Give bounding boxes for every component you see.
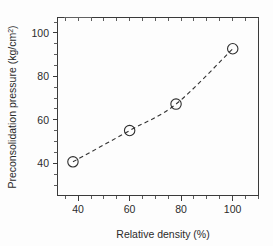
data-point-marker [124, 125, 134, 135]
x-tick-label-2: 80 [175, 203, 187, 215]
x-axis-ticks [65, 196, 258, 201]
data-point-marker [228, 44, 238, 54]
y-tick-label-0: 40 [37, 157, 49, 169]
chart-figure: 40 60 80 100 40 60 80 100 Relative densi… [0, 0, 273, 246]
y-tick-label-3: 100 [31, 27, 49, 39]
y-tick-label-1: 60 [37, 114, 49, 126]
y-tick-label-2: 80 [37, 70, 49, 82]
y-tick-labels: 40 60 80 100 [31, 27, 49, 169]
data-point-marker [171, 99, 181, 109]
series-markers [68, 44, 238, 167]
y-axis-title: Preconsolidation pressure (kg/cm2) [6, 25, 18, 188]
svg-text:Preconsolidation pressure (kg/: Preconsolidation pressure (kg/cm2) [6, 25, 18, 188]
y-axis-title-tail: ) [6, 25, 18, 29]
data-series [68, 44, 238, 167]
top-axis-ticks [65, 18, 258, 22]
data-point-marker [68, 157, 78, 167]
x-tick-label-3: 100 [224, 203, 242, 215]
x-tick-labels: 40 60 80 100 [72, 203, 241, 215]
x-axis-title: Relative density (%) [116, 228, 209, 240]
chart-canvas: 40 60 80 100 40 60 80 100 Relative densi… [0, 0, 273, 246]
x-tick-label-1: 60 [124, 203, 136, 215]
y-axis-title-main: Preconsolidation pressure (kg/cm [6, 33, 18, 189]
x-tick-label-0: 40 [72, 203, 84, 215]
y-axis-ticks [53, 22, 58, 185]
axis-frame [58, 18, 259, 196]
series-dashed-line [73, 49, 233, 162]
